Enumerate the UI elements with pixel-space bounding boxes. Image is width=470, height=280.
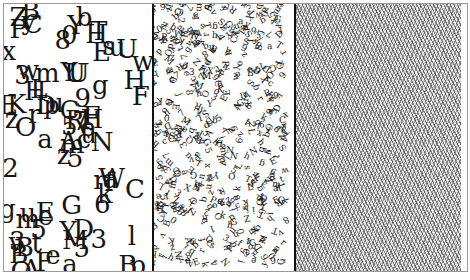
letter-glyph: b xyxy=(212,116,219,126)
letter-glyph: v xyxy=(157,231,167,240)
letter-glyph: B xyxy=(118,252,137,271)
letter-glyph: 8 xyxy=(54,27,71,53)
letter-glyph: X xyxy=(252,172,258,181)
letter-glyph: Z xyxy=(243,215,251,225)
letter-glyph: u xyxy=(202,212,209,221)
letter-glyph: a xyxy=(37,126,53,152)
letter-glyph: g xyxy=(253,119,263,126)
letter-glyph: y xyxy=(264,149,273,155)
letter-glyph: r xyxy=(255,94,265,102)
small-letters-panel: ayNkSb5X4Dxhdo9q2GcKe3PMz8LurTf6BjnswYQA… xyxy=(154,4,294,271)
letter-glyph: 8 xyxy=(281,214,291,225)
letter-glyph: 3 xyxy=(269,108,279,115)
letter-glyph: g xyxy=(258,158,266,168)
letter-glyph: 6 xyxy=(277,70,288,80)
letter-glyph: 0 xyxy=(163,113,170,123)
letter-glyph: H xyxy=(123,67,146,93)
letter-glyph: i xyxy=(160,253,169,261)
letter-glyph: h xyxy=(212,31,218,40)
letter-glyph: 5 xyxy=(172,130,182,137)
letter-glyph: 2 xyxy=(177,17,186,23)
letter-glyph: Q xyxy=(184,134,195,145)
letter-glyph: 9 xyxy=(216,79,223,89)
letter-glyph: r xyxy=(279,238,288,248)
letter-glyph: C xyxy=(125,176,145,202)
letter-glyph: z xyxy=(170,243,176,253)
letter-glyph: 2 xyxy=(4,155,19,181)
letter-glyph: A xyxy=(164,98,173,105)
letter-glyph: K xyxy=(256,191,264,201)
letter-glyph: K xyxy=(155,201,163,211)
letter-glyph: L xyxy=(246,128,256,135)
letter-glyph: 3 xyxy=(189,68,195,77)
letter-glyph: C xyxy=(176,6,185,17)
letter-glyph: g xyxy=(4,196,16,222)
letter-glyph: e xyxy=(210,4,216,8)
letter-glyph: e xyxy=(45,242,60,268)
letter-glyph: k xyxy=(154,78,158,88)
letter-glyph: l xyxy=(128,223,136,249)
letter-glyph: p xyxy=(154,46,164,56)
letter-glyph: N xyxy=(225,146,234,156)
letter-glyph: h xyxy=(243,151,252,162)
noise-texture-panel xyxy=(296,4,461,271)
letter-glyph: w xyxy=(280,166,289,176)
letter-glyph: X xyxy=(182,183,191,194)
letter-glyph: u xyxy=(204,183,214,190)
letter-glyph: v xyxy=(209,9,219,17)
letter-glyph: N xyxy=(91,129,114,155)
letter-glyph: C xyxy=(230,36,239,43)
letter-glyph: z xyxy=(170,53,175,62)
letter-glyph: S xyxy=(243,37,251,47)
letter-glyph: b xyxy=(154,68,159,78)
letter-glyph: j xyxy=(175,91,184,97)
letter-glyph: b xyxy=(199,195,209,203)
letter-glyph: K xyxy=(156,96,163,105)
letter-glyph: G xyxy=(61,192,82,218)
letter-glyph: N xyxy=(220,256,232,268)
letter-glyph: s xyxy=(209,240,216,250)
letter-glyph: x xyxy=(203,163,212,168)
letter-glyph: a xyxy=(62,251,78,271)
letter-glyph: w xyxy=(232,73,241,81)
letter-glyph: q xyxy=(250,83,260,91)
letter-glyph: x xyxy=(154,258,156,268)
letter-glyph: g xyxy=(92,72,109,98)
letter-glyph: c xyxy=(273,12,279,21)
letter-glyph: r xyxy=(201,31,211,37)
letter-glyph: W xyxy=(98,165,125,191)
figure-frame: 53m3HeTUEcCpOwzgAY9uuBtUFfw0zrFAY5msEBla… xyxy=(3,3,468,272)
letter-glyph: k xyxy=(199,261,209,268)
letter-glyph: L xyxy=(156,180,165,191)
letter-glyph: 7 xyxy=(72,108,89,134)
letter-glyph: Q xyxy=(276,61,286,70)
letter-glyph: 9 xyxy=(258,208,268,215)
letter-glyph: Y xyxy=(207,100,213,109)
letter-glyph: S xyxy=(278,143,289,153)
letter-glyph: E xyxy=(222,89,232,96)
large-letters-panel: 53m3HeTUEcCpOwzgAY9uuBtUFfw0zrFAY5msEBla… xyxy=(4,4,152,271)
letter-glyph: 7 xyxy=(179,53,189,61)
letter-glyph: P xyxy=(10,16,28,42)
letter-glyph: B xyxy=(15,234,34,260)
letter-glyph: H xyxy=(85,21,108,47)
letter-glyph: u xyxy=(109,34,126,60)
letter-glyph: i xyxy=(252,205,256,214)
letter-glyph: k xyxy=(233,185,243,192)
letter-glyph: C xyxy=(277,258,286,265)
letter-glyph: Q xyxy=(173,170,182,178)
letter-glyph: e xyxy=(250,256,256,265)
letter-glyph: U xyxy=(64,60,86,86)
letter-glyph: a xyxy=(267,42,273,51)
letter-glyph: H xyxy=(24,78,47,104)
letter-glyph: 0 xyxy=(169,214,179,225)
letter-glyph: 6 xyxy=(235,137,245,144)
noise-texture xyxy=(296,4,461,271)
